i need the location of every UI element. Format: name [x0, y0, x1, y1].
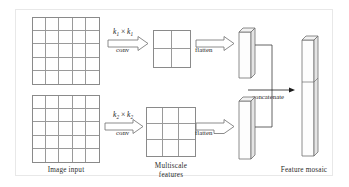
bottom-conv-arrow [105, 120, 143, 134]
diagram-overlay [0, 0, 349, 187]
bottom-flatten-arrow [196, 120, 234, 134]
top-feature-vector [239, 28, 255, 78]
top-conv-arrow [108, 37, 148, 51]
bottom-feature-vector [239, 97, 255, 159]
figure-canvas: k1 × k1 conv flatten k2 × k2 conv flatte… [0, 0, 349, 187]
feature-mosaic-vector [302, 36, 318, 156]
top-flatten-arrow [196, 37, 234, 51]
